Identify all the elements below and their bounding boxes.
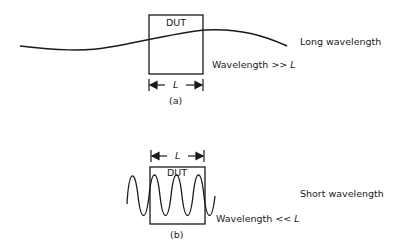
relation-text-a: Wavelength >> [212, 59, 290, 70]
long-wave [20, 30, 287, 50]
dut-label-a: DUT [166, 18, 186, 28]
caption-b: (b) [170, 230, 183, 240]
relation-label-b: Wavelength << L [216, 214, 300, 224]
panel-b [127, 150, 215, 224]
caption-a: (a) [169, 96, 182, 106]
long-wavelength-label: Long wavelength [300, 37, 381, 47]
relation-var-b: L [294, 213, 299, 224]
panel-a [20, 15, 287, 91]
short-wavelength-label: Short wavelength [300, 189, 384, 199]
dimension-label-a: L [173, 80, 178, 90]
dimension-label-b: L [175, 151, 180, 161]
relation-var-a: L [290, 59, 295, 70]
dut-label-b: DUT [167, 168, 187, 178]
relation-label-a: Wavelength >> L [212, 60, 296, 70]
short-wave [127, 175, 215, 216]
relation-text-b: Wavelength << [216, 213, 294, 224]
